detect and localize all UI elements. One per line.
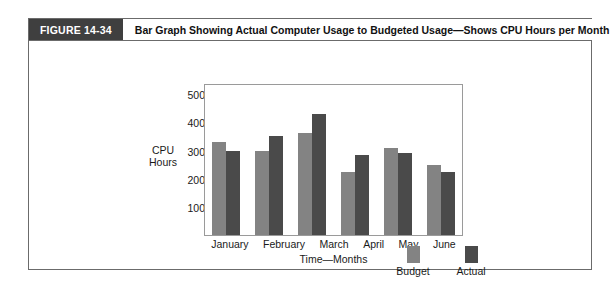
plot-area (204, 84, 463, 236)
chart-canvas: CPU Hours 100200300400500 JanuaryFebruar… (29, 41, 591, 269)
bar-actual-april (355, 155, 369, 235)
figure-header: FIGURE 14-34 Bar Graph Showing Actual Co… (29, 19, 591, 41)
figure-caption-title: Bar Graph Showing Actual Computer Usage … (123, 19, 609, 40)
y-axis-tick-label: 500 (187, 89, 205, 101)
bar-groups (205, 85, 462, 235)
bar-budget-may (384, 148, 398, 235)
bar-group (427, 85, 455, 235)
y-axis-tick-label: 100 (187, 202, 205, 214)
x-axis-tick-label: February (263, 238, 305, 250)
bar-budget-april (341, 172, 355, 235)
bar-actual-february (269, 136, 283, 235)
y-axis-tick-label: 400 (187, 117, 205, 129)
bar-budget-january (212, 142, 226, 235)
bar-group (384, 85, 412, 235)
bar-group (255, 85, 283, 235)
bar-actual-march (312, 114, 326, 235)
bar-budget-february (255, 151, 269, 235)
x-axis-tick-label: March (320, 238, 349, 250)
legend-item-actual: Actual (449, 246, 493, 277)
bar-group (341, 85, 369, 235)
bar-actual-may (398, 153, 412, 235)
bar-group (212, 85, 240, 235)
bar-budget-june (427, 165, 441, 235)
y-axis-tick-labels: 100200300400500 (177, 41, 205, 241)
legend-swatch-actual (465, 246, 478, 263)
legend-swatch-budget (407, 246, 420, 263)
figure-number-tag: FIGURE 14-34 (29, 19, 123, 40)
legend-item-budget: Budget (391, 246, 435, 277)
bar-group (298, 85, 326, 235)
y-axis-tick-label: 200 (187, 174, 205, 186)
figure-container: FIGURE 14-34 Bar Graph Showing Actual Co… (28, 18, 592, 270)
chart-legend: BudgetActual (391, 246, 493, 277)
bar-actual-june (441, 172, 455, 235)
y-axis-tick-label: 300 (187, 146, 205, 158)
bar-budget-march (298, 133, 312, 235)
bar-actual-january (226, 151, 240, 235)
x-axis-tick-label: January (211, 238, 248, 250)
legend-label-actual: Actual (449, 265, 493, 277)
x-axis-tick-label: April (363, 238, 384, 250)
legend-label-budget: Budget (391, 265, 435, 277)
